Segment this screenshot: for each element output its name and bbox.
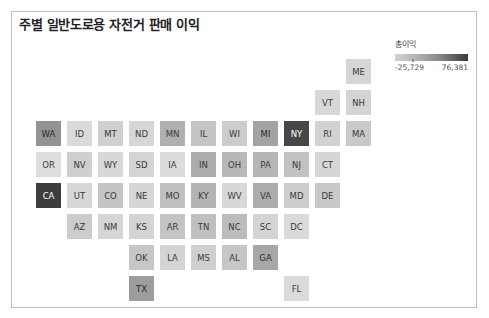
state-tile-va[interactable]: VA [253,183,278,208]
state-tile-me[interactable]: ME [346,59,371,84]
state-tile-nh[interactable]: NH [346,90,371,115]
state-tile-ms[interactable]: MS [191,245,216,270]
state-tile-ks[interactable]: KS [129,214,154,239]
state-tile-ny[interactable]: NY [284,121,309,146]
state-tile-nc[interactable]: NC [222,214,247,239]
state-tile-al[interactable]: AL [222,245,247,270]
state-tile-dc[interactable]: DC [284,214,309,239]
state-tile-ct[interactable]: CT [315,152,340,177]
legend-labels: -25,729 76,381 [395,63,468,72]
color-legend: 총이익 -25,729 76,381 [395,39,470,72]
state-tile-nv[interactable]: NV [67,152,92,177]
state-tile-ga[interactable]: GA [253,245,278,270]
state-tile-tn[interactable]: TN [191,214,216,239]
state-tile-nm[interactable]: NM [98,214,123,239]
state-tile-ky[interactable]: KY [191,183,216,208]
state-tile-wa[interactable]: WA [36,121,61,146]
state-tile-mt[interactable]: MT [98,121,123,146]
map-title: 주별 일반도로용 자전거 판매 이익 [19,14,200,33]
state-tile-il[interactable]: IL [191,121,216,146]
state-tile-tx[interactable]: TX [129,276,154,301]
legend-min-label: -25,729 [395,63,424,72]
state-tile-mn[interactable]: MN [160,121,185,146]
legend-gradient-bar [395,54,468,61]
state-tile-sd[interactable]: SD [129,152,154,177]
state-tile-ri[interactable]: RI [315,121,340,146]
state-tile-sc[interactable]: SC [253,214,278,239]
state-tile-fl[interactable]: FL [284,276,309,301]
state-tile-mi[interactable]: MI [253,121,278,146]
state-tile-wv[interactable]: WV [222,183,247,208]
state-tile-vt[interactable]: VT [315,90,340,115]
legend-title: 총이익 [395,39,470,51]
state-tile-ma[interactable]: MA [346,121,371,146]
state-tile-la[interactable]: LA [160,245,185,270]
state-tile-nj[interactable]: NJ [284,152,309,177]
state-tile-ut[interactable]: UT [67,183,92,208]
legend-zero-marker [412,59,414,62]
state-tile-in[interactable]: IN [191,152,216,177]
state-tile-mo[interactable]: MO [160,183,185,208]
state-tile-ca[interactable]: CA [36,183,61,208]
legend-max-label: 76,381 [442,63,468,72]
state-tile-nd[interactable]: ND [129,121,154,146]
state-tile-oh[interactable]: OH [222,152,247,177]
state-tile-or[interactable]: OR [36,152,61,177]
state-tile-id[interactable]: ID [67,121,92,146]
state-tile-co[interactable]: CO [98,183,123,208]
state-tile-az[interactable]: AZ [67,214,92,239]
state-tile-ne[interactable]: NE [129,183,154,208]
state-tile-wi[interactable]: WI [222,121,247,146]
state-tile-wy[interactable]: WY [98,152,123,177]
state-tile-md[interactable]: MD [284,183,309,208]
state-tile-ar[interactable]: AR [160,214,185,239]
state-tile-ok[interactable]: OK [129,245,154,270]
state-tile-pa[interactable]: PA [253,152,278,177]
state-tile-ia[interactable]: IA [160,152,185,177]
state-tile-de[interactable]: DE [315,183,340,208]
